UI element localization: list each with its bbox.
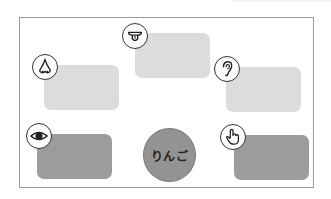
tongue-icon xyxy=(122,23,148,49)
nose-icon xyxy=(32,54,58,80)
eye-icon xyxy=(26,123,52,149)
ear-icon xyxy=(214,56,240,82)
top-divider xyxy=(232,0,331,2)
center-node: りんご xyxy=(143,128,196,182)
touch-box[interactable] xyxy=(234,135,309,180)
hand-pointer-icon xyxy=(220,124,246,150)
